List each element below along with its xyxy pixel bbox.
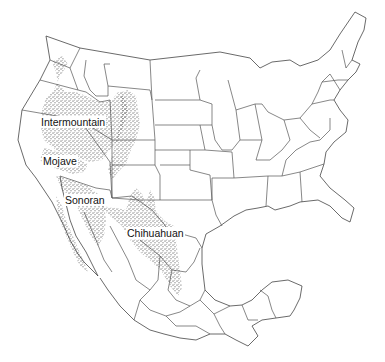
sonoran-region xyxy=(56,176,106,246)
desert-regions xyxy=(40,56,182,296)
region-label-mojave: Mojave xyxy=(42,155,78,167)
region-label-chihuahuan: Chihuahuan xyxy=(126,227,185,239)
country-outlines xyxy=(18,12,366,346)
region-label-intermountain: Intermountain xyxy=(40,116,106,128)
chihuahuan-region xyxy=(100,188,182,296)
desert-map xyxy=(0,0,385,362)
region-label-sonoran: Sonoran xyxy=(64,194,106,206)
